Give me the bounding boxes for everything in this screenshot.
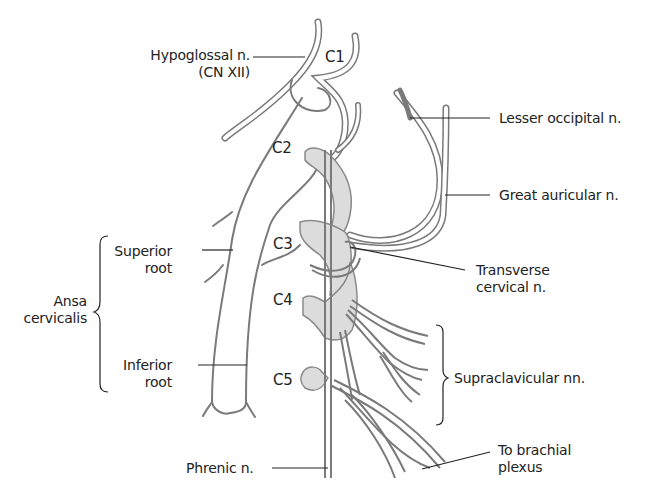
supraclavicular-branches (340, 300, 428, 402)
lesser-occipital-label: Lesser occipital n. (499, 110, 621, 127)
superior-root-label-line2: root (110, 260, 172, 277)
hypoglossal-label-line2: (CN XII) (95, 64, 250, 81)
ansa-loop-bottom (212, 402, 246, 414)
great-auricular-nerve (350, 108, 446, 248)
c5-label: C5 (273, 372, 293, 389)
inferior-root-label-line2: root (110, 374, 172, 391)
brachial-plexus-trunks (330, 380, 445, 478)
c4-label: C4 (273, 292, 293, 309)
superior-root-label-line1: Superior (110, 243, 172, 260)
great-auricular-label: Great auricular n. (499, 187, 619, 204)
hypoglossal-label: Hypoglossal n. (CN XII) (95, 47, 250, 81)
phrenic-label: Phrenic n. (186, 460, 254, 477)
c3-label: C3 (273, 236, 293, 253)
supraclavicular-label: Supraclavicular nn. (454, 370, 585, 387)
c1-label: C1 (325, 49, 345, 66)
brachial-label-line1: To brachial (498, 442, 571, 459)
inferior-root-label: Inferior root (110, 357, 172, 391)
inferior-root-label-line1: Inferior (110, 357, 172, 374)
inferior-root-nerve (246, 160, 320, 402)
transverse-cervical-label: Transverse cervical n. (476, 262, 550, 296)
brachial-plexus-label: To brachial plexus (498, 442, 571, 476)
superior-root-label: Superior root (110, 243, 172, 277)
lesser-occipital-nerve (350, 90, 440, 240)
ansa-cervicalis-label: Ansa cervicalis (5, 293, 87, 327)
c5-root (301, 367, 328, 390)
transverse-label-line2: cervical n. (476, 279, 550, 296)
ansa-label-line1: Ansa (5, 293, 87, 310)
brachial-label-line2: plexus (498, 459, 571, 476)
c2-label: C2 (272, 140, 292, 157)
ansa-label-line2: cervicalis (5, 310, 87, 327)
transverse-label-line1: Transverse (476, 262, 550, 279)
hypoglossal-label-line1: Hypoglossal n. (95, 47, 250, 64)
